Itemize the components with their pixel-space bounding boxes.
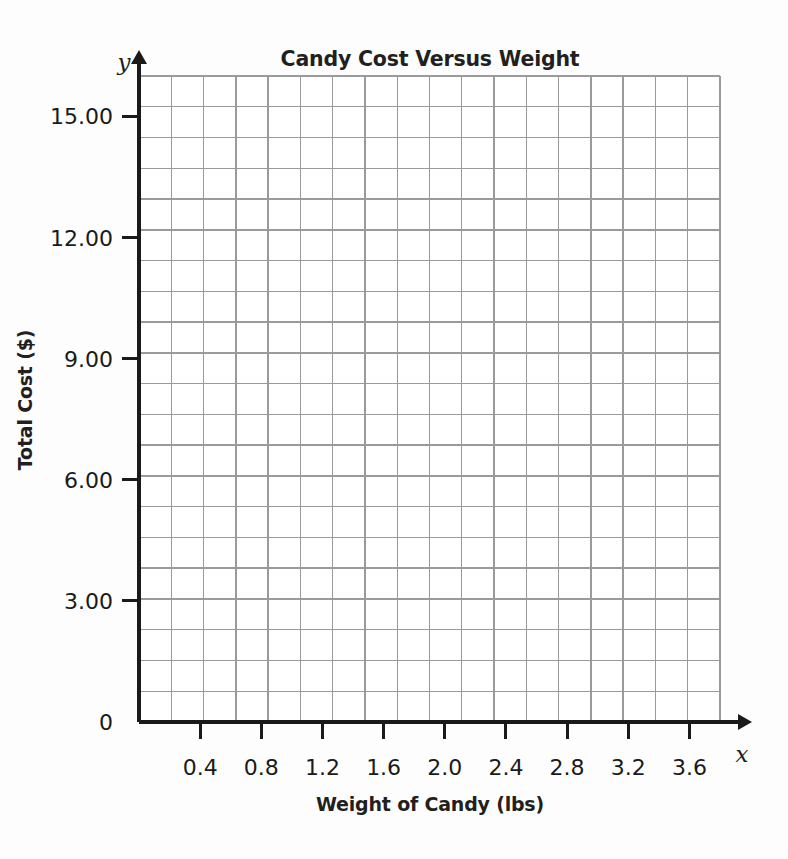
x-tick-label: 3.2	[611, 755, 646, 780]
x-axis-letter: x	[736, 741, 749, 767]
y-tick-label: 9.00	[64, 347, 113, 372]
x-tick-label: 1.2	[305, 755, 340, 780]
x-axis-title: Weight of Candy (lbs)	[316, 793, 544, 815]
x-tick-label: 0.4	[183, 755, 218, 780]
chart-container: 0.40.81.21.62.02.42.83.23.6 03.006.009.0…	[0, 0, 788, 859]
x-tick-label: 2.4	[488, 755, 523, 780]
y-tick-label: 15.00	[50, 104, 113, 129]
x-tick-label: 0.8	[244, 755, 279, 780]
origin-label: 0	[99, 710, 113, 735]
x-tick-label: 2.0	[427, 755, 462, 780]
chart-title: Candy Cost Versus Weight	[281, 47, 580, 71]
x-tick-label: 1.6	[366, 755, 401, 780]
x-tick-label: 3.6	[672, 755, 707, 780]
x-axis-tick-labels: 0.40.81.21.62.02.42.83.23.6	[183, 755, 707, 780]
y-tick-label: 6.00	[64, 468, 113, 493]
x-tick-label: 2.8	[550, 755, 585, 780]
y-tick-label: 3.00	[64, 589, 113, 614]
y-axis-title: Total Cost ($)	[14, 330, 36, 470]
candy-cost-chart: 0.40.81.21.62.02.42.83.23.6 03.006.009.0…	[0, 0, 788, 859]
y-tick-label: 12.00	[50, 226, 113, 251]
y-axis-letter: y	[117, 49, 132, 75]
